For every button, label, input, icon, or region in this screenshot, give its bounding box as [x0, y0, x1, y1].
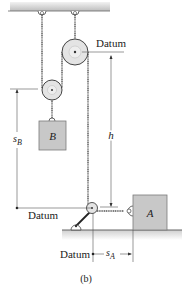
datum-top-label: Datum	[96, 37, 126, 49]
ceiling	[8, 2, 110, 11]
sa-label: sA	[106, 247, 115, 261]
ceiling-anchor-left	[38, 11, 46, 15]
ground	[62, 230, 182, 240]
block-a-label: A	[146, 207, 154, 219]
datum-top: Datum	[82, 37, 126, 52]
block-b: B	[39, 118, 66, 150]
block-b-label: B	[49, 130, 56, 142]
datum-bottom-label: Datum	[60, 248, 90, 260]
lower-pulley	[42, 80, 62, 100]
h-label: h	[108, 129, 114, 141]
h-dimension: h	[100, 55, 118, 207]
pulley-system-diagram: B A Datum h	[0, 0, 190, 290]
ceiling-anchor-right	[71, 11, 79, 15]
datum-left-label: Datum	[28, 209, 58, 221]
sb-dimension: sB	[9, 89, 38, 209]
block-a: A	[127, 195, 167, 230]
figure-caption: (b)	[80, 273, 92, 285]
datum-left: Datum	[17, 208, 92, 221]
